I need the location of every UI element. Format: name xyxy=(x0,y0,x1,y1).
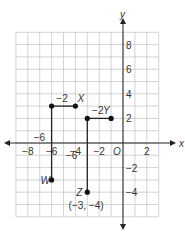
point-label-y: Y xyxy=(103,105,111,116)
y-tick-label: 8 xyxy=(126,40,132,51)
segment-label: −6 xyxy=(34,132,46,143)
point-z xyxy=(85,190,90,195)
segment-label: −6 xyxy=(66,150,78,161)
arrow-right-icon xyxy=(170,140,176,146)
origin-label: O xyxy=(113,146,121,157)
y-tick-label: 4 xyxy=(126,89,132,100)
y-tick-label: 6 xyxy=(126,64,132,75)
y-tick-label: −2 xyxy=(126,163,138,174)
x-axis-label: x xyxy=(178,138,185,149)
axes xyxy=(4,18,176,230)
arrow-left-icon xyxy=(4,140,10,146)
coordinate-plane: xyO−8−6−4−228642−2−4XWYZ−2−6−2−6(−3, −4) xyxy=(0,0,185,233)
x-tick-label: −2 xyxy=(93,146,105,157)
point-corner2 xyxy=(85,116,90,121)
point-corner1 xyxy=(49,104,54,109)
segment-label: −2 xyxy=(92,105,104,116)
point-label-w: W xyxy=(41,175,52,186)
y-tick-label: −4 xyxy=(126,187,138,198)
point-y xyxy=(109,116,114,121)
point-label-z: Z xyxy=(75,187,83,198)
point-label-x: X xyxy=(76,93,84,104)
y-tick-label: 2 xyxy=(126,113,132,124)
x-tick-label: −6 xyxy=(46,146,58,157)
z-coordinate-label: (−3, −4) xyxy=(69,200,104,211)
x-tick-label: −8 xyxy=(22,146,34,157)
arrow-down-icon xyxy=(120,224,126,230)
y-axis-label: y xyxy=(119,9,126,20)
point-x xyxy=(73,104,78,109)
segment-label: −2 xyxy=(56,93,68,104)
x-tick-label: 2 xyxy=(144,146,150,157)
